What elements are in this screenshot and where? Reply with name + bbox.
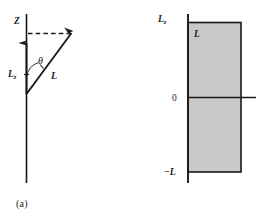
theta-label: θ [38,55,43,66]
l-vector-label: L [50,70,57,81]
z-axis-label: Z [13,16,20,26]
lz-axis-label: Lz [157,14,167,25]
panel-a-diagram: Z Lz θ L [0,0,134,190]
panel-b: Lz L 0 −L (b) [134,0,268,217]
l-vector-arrow [27,33,72,94]
figure-root: Z Lz θ L (a) [0,0,268,217]
panel-a: Z Lz θ L (a) [0,0,134,217]
tick-label-top-L: L [193,29,200,39]
tick-label-bottom-negative-L: −L [164,167,176,177]
tick-label-zero: 0 [172,93,177,103]
panel-b-diagram: Lz L 0 −L [134,0,268,190]
lz-component-label: Lz [7,69,17,80]
caption-a: (a) [16,198,28,209]
